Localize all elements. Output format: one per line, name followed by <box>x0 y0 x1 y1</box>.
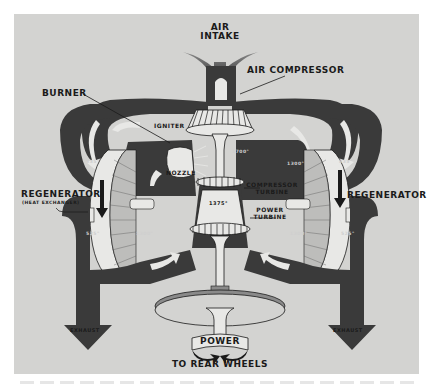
compressor-pointer <box>240 76 285 94</box>
label-to-rear-wheels: TO REAR WHEELS <box>170 360 270 369</box>
label-compressor-turbine-2: TURBINE <box>242 189 302 195</box>
label-power-turbine-2: TURBINE <box>250 214 290 220</box>
label-burner: BURNER <box>42 89 87 98</box>
temp-center-upper-left: 1700° <box>232 150 249 155</box>
label-igniter: IGNITER <box>154 123 185 129</box>
air-compressor <box>186 110 254 136</box>
temp-turbine-center: 1375° <box>209 201 228 206</box>
temp-right-upper: 835° <box>339 160 353 165</box>
regenerator-left-axle <box>130 199 154 209</box>
temp-left-upper: 835° <box>86 160 100 165</box>
reduction-gear <box>155 290 285 336</box>
label-heat-exchanger: (HEAT EXCHANGER) <box>22 201 80 206</box>
temp-left-lower: 525° <box>86 232 100 237</box>
temp-center-lower-left: 1300° <box>136 232 153 237</box>
burner <box>124 140 208 196</box>
temp-center-upper-right: 1300° <box>287 162 304 167</box>
temp-right-lower: 525° <box>341 232 355 237</box>
label-air-compressor: AIR COMPRESSOR <box>247 66 344 75</box>
regenerator-right <box>304 150 350 278</box>
faint-caption-line <box>20 381 420 384</box>
label-regenerator-left: REGENERATOR <box>21 190 101 199</box>
temp-center-lower-right: 1300° <box>290 232 307 237</box>
label-exhaust-left: EXHAUST <box>70 328 100 333</box>
label-air-intake-2: INTAKE <box>198 32 242 41</box>
label-regenerator-right: REGENERATOR <box>347 191 427 200</box>
label-power: POWER <box>198 337 242 346</box>
regenerator-left <box>90 150 136 278</box>
air-intake-duct <box>183 52 258 106</box>
label-exhaust-right: EXHAUST <box>333 328 363 333</box>
label-nozzle: NOZZLE <box>166 170 196 176</box>
flow-arrow-burner-in <box>112 122 140 132</box>
